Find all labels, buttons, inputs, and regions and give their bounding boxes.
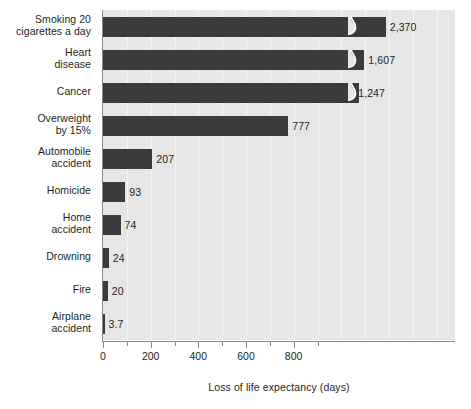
category-label-line: Fire — [0, 284, 91, 296]
x-axis-tick-label: 600 — [237, 350, 255, 362]
category-label: Homicide — [0, 185, 97, 197]
bar-value-label: 1,247 — [358, 83, 385, 103]
bar-value-label: 1,607 — [368, 50, 395, 70]
bar-value-label: 24 — [113, 248, 125, 268]
x-axis-major-tick — [246, 342, 247, 348]
plot-area: 2,3701,6071,247777207937424203.7 — [103, 10, 455, 340]
category-label: Heartdisease — [0, 47, 97, 70]
bar-value-label: 20 — [112, 281, 124, 301]
bar-chart: Smoking 20cigarettes a dayHeartdiseaseCa… — [0, 0, 471, 409]
category-label: Smoking 20cigarettes a day — [0, 14, 97, 37]
y-axis-line — [102, 10, 103, 342]
x-axis-minor-tick — [270, 342, 271, 346]
category-label-line: disease — [0, 59, 91, 71]
bar-value-label: 93 — [129, 182, 141, 202]
bar — [103, 248, 109, 268]
category-label: Cancer — [0, 86, 97, 98]
bar — [103, 215, 121, 235]
bar — [103, 83, 354, 103]
bar-value-label: 3.7 — [109, 314, 124, 334]
bar — [103, 50, 364, 70]
category-label: Automobileaccident — [0, 146, 97, 169]
gridline — [437, 10, 438, 340]
x-axis-title: Loss of life expectancy (days) — [103, 381, 455, 393]
bar — [103, 281, 108, 301]
x-axis-minor-tick — [318, 342, 319, 346]
category-label: Drowning — [0, 251, 97, 263]
bar-value-label: 2,370 — [390, 17, 417, 37]
x-axis-tick-label: 400 — [190, 350, 208, 362]
category-label-line: cigarettes a day — [0, 26, 91, 38]
x-axis-major-tick — [151, 342, 152, 348]
category-label-line: Cancer — [0, 86, 91, 98]
category-label-line: Drowning — [0, 251, 91, 263]
x-axis-tick-label: 800 — [285, 350, 303, 362]
x-axis-major-tick — [103, 342, 104, 348]
gridline — [413, 10, 414, 340]
bar — [103, 314, 105, 334]
category-label: Overweightby 15% — [0, 113, 97, 136]
x-axis-major-tick — [294, 342, 295, 348]
bar — [103, 116, 288, 136]
x-axis-tick-label: 0 — [100, 350, 106, 362]
category-label-line: Homicide — [0, 185, 91, 197]
category-label: Airplaneaccident — [0, 311, 97, 334]
category-label: Homeaccident — [0, 212, 97, 235]
x-axis-line — [103, 341, 455, 342]
bar — [103, 182, 125, 202]
category-axis: Smoking 20cigarettes a dayHeartdiseaseCa… — [0, 10, 97, 340]
bar — [103, 149, 152, 169]
x-axis-major-tick — [198, 342, 199, 348]
x-axis-tick-label: 200 — [142, 350, 160, 362]
bar-value-label: 74 — [125, 215, 137, 235]
x-axis-minor-tick — [127, 342, 128, 346]
category-label-line: by 15% — [0, 125, 91, 137]
x-axis-minor-tick — [175, 342, 176, 346]
bar — [103, 17, 386, 37]
bar-value-label: 207 — [156, 149, 174, 169]
gridline — [365, 10, 366, 340]
x-axis-minor-tick — [222, 342, 223, 346]
category-label-line: accident — [0, 224, 91, 236]
category-label-line: accident — [0, 323, 91, 335]
category-label: Fire — [0, 284, 97, 296]
category-label-line: accident — [0, 158, 91, 170]
bar-value-label: 777 — [292, 116, 310, 136]
